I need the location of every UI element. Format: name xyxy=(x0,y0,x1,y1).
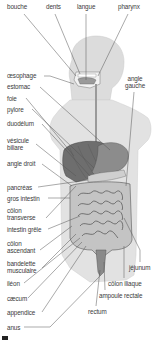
label-angle-droit: angle droit xyxy=(7,160,35,167)
leader-bouche xyxy=(24,14,76,76)
label-colon-transverse: côlon transverse xyxy=(7,207,35,221)
corner-mark xyxy=(2,336,8,340)
label-colon-iliaque: côlon iliaque xyxy=(108,280,142,287)
label-angle-gauche-line1: angle xyxy=(125,75,145,82)
label-colon-transverse-line1: côlon xyxy=(7,207,35,214)
label-oesophage: œsophage xyxy=(7,72,36,79)
label-appendice: appendice xyxy=(7,309,35,316)
label-vesicule-line1: vésicule xyxy=(7,137,29,144)
tongue-shape xyxy=(78,78,96,84)
label-caecum: cæcum xyxy=(7,295,27,302)
label-pancreas: pancréas xyxy=(7,184,32,191)
label-ileon: iléon xyxy=(7,280,20,287)
digestive-system-illustration xyxy=(0,0,156,340)
label-ampoule-rectale: ampoule rectale xyxy=(99,292,142,299)
label-foie: foie xyxy=(7,95,17,102)
label-colon-transverse-line2: transverse xyxy=(7,214,35,221)
label-bandelette-line1: bandelette xyxy=(7,260,36,267)
teeth-shape xyxy=(78,74,96,77)
label-colon-ascendant-line2: ascendant xyxy=(7,247,35,254)
label-intestin-grele: intestin grêle xyxy=(7,226,41,233)
label-angle-gauche-line2: gauche xyxy=(125,82,145,89)
label-duodenum: duodélum xyxy=(7,120,34,127)
label-vesicule-line2: biliare xyxy=(7,144,29,151)
label-vesicule: vésicule biliare xyxy=(7,137,29,151)
label-bandelette: bandelette musculaire xyxy=(7,260,36,274)
label-bouche: bouche xyxy=(7,3,27,10)
label-pylore: pylore xyxy=(7,106,24,113)
label-estomac: estomac xyxy=(7,83,30,90)
label-colon-ascendant-line1: côlon xyxy=(7,240,35,247)
label-pharynx: pharynx xyxy=(118,3,140,10)
label-colon-ascendant: côlon ascendant xyxy=(7,240,35,254)
label-bandelette-line2: musculaire xyxy=(7,267,36,274)
label-dents: dents xyxy=(46,3,61,10)
label-gros-intestin: gros intestin xyxy=(7,195,40,202)
label-anus: anus xyxy=(7,324,20,331)
label-jejunum: jéjunum xyxy=(129,264,150,271)
label-langue: langue xyxy=(77,3,95,10)
leader-anus xyxy=(24,276,100,327)
esophagus-shape xyxy=(95,84,97,150)
label-angle-gauche: angle gauche xyxy=(125,75,145,89)
label-rectum: rectum xyxy=(88,308,107,315)
